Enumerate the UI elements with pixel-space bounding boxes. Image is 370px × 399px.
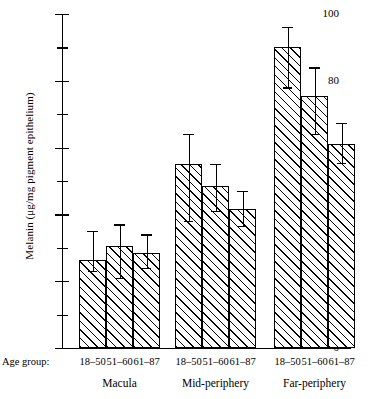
error-bar-upper-stem	[243, 191, 244, 209]
y-tick-label: 80	[305, 75, 339, 86]
error-bar-lower-stem	[243, 209, 244, 226]
error-bar-lower-stem	[342, 144, 343, 162]
y-tick-major	[55, 14, 62, 15]
group-label: Mid-periphery	[171, 377, 261, 389]
error-bar-lower-stem	[120, 246, 121, 278]
plot-area: 020406080100	[62, 14, 351, 348]
error-bar-lower-stem	[189, 164, 190, 221]
age-tick-label: 61–87	[226, 356, 260, 367]
y-tick-label: 100	[305, 8, 339, 19]
error-bar-upper-stem	[93, 231, 94, 259]
age-tick-label: 61–87	[130, 356, 164, 367]
y-tick-inner	[63, 81, 69, 82]
y-tick-inner	[63, 14, 69, 15]
error-bar-upper-cap	[210, 164, 221, 165]
error-bar-lower-cap	[337, 163, 346, 164]
error-bar-upper-cap	[237, 191, 248, 192]
bar	[274, 47, 301, 348]
y-tick-minor	[57, 114, 62, 115]
error-bar-upper-stem	[147, 234, 148, 252]
error-bar-lower-cap	[88, 271, 97, 272]
error-bar-lower-cap	[310, 134, 319, 135]
error-bar-upper-stem	[342, 123, 343, 145]
error-bar-lower-stem	[288, 47, 289, 87]
y-tick-major	[55, 81, 62, 82]
error-bar-lower-stem	[315, 96, 316, 134]
y-tick-inner	[63, 214, 69, 215]
y-tick-minor	[57, 181, 62, 182]
y-tick-inner	[63, 148, 69, 149]
y-axis-title: Melanin (μg/mg pigment epithelium)	[23, 51, 35, 301]
error-bar-lower-cap	[211, 211, 220, 212]
y-tick-major	[55, 214, 62, 215]
error-bar-lower-stem	[147, 253, 148, 268]
y-tick-inner-minor	[63, 114, 68, 115]
age-tick-label: 61–87	[325, 356, 359, 367]
error-bar-upper-cap	[141, 234, 152, 235]
error-bar-upper-cap	[87, 231, 98, 232]
melanin-bar-chart: Melanin (μg/mg pigment epithelium) 02040…	[0, 0, 370, 399]
group-label: Macula	[75, 377, 165, 389]
error-bar-upper-stem	[288, 27, 289, 47]
group-label: Far-periphery	[270, 377, 360, 389]
error-bar-lower-stem	[216, 186, 217, 211]
y-tick-major	[55, 148, 62, 149]
error-bar-upper-cap	[282, 27, 293, 28]
y-tick-inner	[63, 281, 69, 282]
bar	[328, 144, 355, 348]
error-bar-upper-stem	[216, 164, 217, 186]
error-bar-lower-stem	[93, 259, 94, 271]
error-bar-upper-stem	[189, 134, 190, 164]
bar	[79, 260, 106, 349]
error-bar-lower-cap	[238, 226, 247, 227]
bar	[229, 209, 256, 348]
y-tick-minor	[57, 47, 62, 48]
error-bar-upper-cap	[114, 224, 125, 225]
error-bar-lower-cap	[115, 278, 124, 279]
y-tick-minor	[57, 315, 62, 316]
error-bar-upper-cap	[336, 123, 347, 124]
y-tick-minor	[57, 248, 62, 249]
error-bar-upper-cap	[309, 67, 320, 68]
y-tick-major	[55, 348, 62, 349]
y-tick-major	[55, 281, 62, 282]
error-bar-upper-stem	[120, 224, 121, 246]
error-bar-lower-cap	[283, 87, 292, 88]
y-tick-inner-minor	[63, 315, 68, 316]
y-tick-inner	[63, 348, 69, 349]
y-tick-inner-minor	[63, 181, 68, 182]
error-bar-upper-cap	[183, 134, 194, 135]
error-bar-lower-cap	[184, 221, 193, 222]
age-group-axis-label: Age group:	[2, 356, 50, 367]
error-bar-lower-cap	[142, 268, 151, 269]
error-bar-upper-stem	[315, 67, 316, 95]
y-tick-inner-minor	[63, 248, 68, 249]
y-tick-inner-minor	[63, 47, 68, 48]
